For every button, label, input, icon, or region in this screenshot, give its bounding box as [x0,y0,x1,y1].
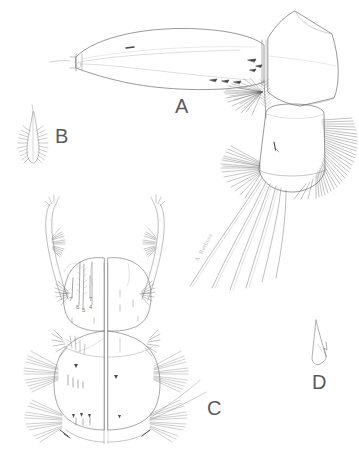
illustration-plate: A. Barbosa A B C D 7 6 5 7 4 [0,0,359,460]
plate-background [0,0,359,460]
panel-label-b: B [55,126,69,146]
panel-label-c: C [207,398,222,418]
seta-number-7-right: 7 [89,296,92,302]
plate-artwork: A. Barbosa [0,0,359,460]
seta-number-4: 4 [89,304,92,310]
panel-label-d: D [312,372,327,392]
seta-number-7-left: 7 [69,296,72,302]
panel-label-a: A [175,96,189,116]
seta-number-6: 6 [76,304,79,310]
seta-number-5: 5 [82,307,85,313]
